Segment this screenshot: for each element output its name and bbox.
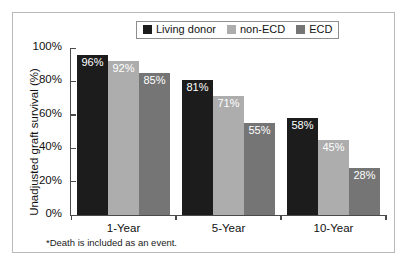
legend-item-ecd: ECD [296,24,332,35]
bar-group: 81%71%55%5-Year [176,48,281,215]
bar-value-label: 71% [213,98,244,109]
bar[interactable]: 55% [244,123,275,215]
legend-item-non-ecd: non-ECD [227,24,285,35]
legend-label-ecd: ECD [309,24,332,35]
legend-swatch-ecd [296,25,305,34]
y-axis-tick-label: 80% [39,73,62,85]
legend-swatch-living-donor [143,25,152,34]
y-axis-tick-label: 20% [39,174,62,186]
x-axis-label: 5-Year [176,222,281,234]
bar-value-label: 85% [139,75,170,86]
bar[interactable]: 85% [139,73,170,215]
plot-area: 0%20%40%60%80%100% 96%92%85%1-Year81%71%… [70,48,386,216]
legend-label-non-ecd: non-ECD [240,24,285,35]
chart-legend: Living donor non-ECD ECD [136,21,339,39]
bar[interactable]: 81% [182,80,213,215]
x-axis-tick-mark [385,215,386,220]
bar-groups: 96%92%85%1-Year81%71%55%5-Year58%45%28%1… [71,48,386,215]
y-axis-tick-label: 60% [39,107,62,119]
x-axis-tick-mark [281,215,282,220]
bar[interactable]: 28% [349,168,380,215]
bar-value-label: 58% [287,120,318,131]
legend-swatch-non-ecd [227,25,236,34]
chart-figure: Living donor non-ECD ECD Unadjusted graf… [12,12,395,253]
bar-value-label: 81% [182,82,213,93]
bar[interactable]: 71% [213,96,244,215]
bar-group: 96%92%85%1-Year [71,48,176,215]
bar-value-label: 92% [108,63,139,74]
y-axis-tick-label: 100% [33,40,62,52]
bar-value-label: 28% [349,170,380,181]
legend-item-living-donor: Living donor [143,24,216,35]
x-axis-tick-mark [176,215,177,220]
bar-value-label: 55% [244,125,275,136]
chart-footnote: *Death is included as an event. [46,237,177,248]
bar[interactable]: 96% [77,55,108,215]
x-axis-tick-mark [71,215,72,220]
x-axis-label: 1-Year [71,222,176,234]
legend-label-living-donor: Living donor [156,24,216,35]
bar[interactable]: 92% [108,61,139,215]
bar-value-label: 45% [318,142,349,153]
y-axis-tick-label: 40% [39,140,62,152]
bar-value-label: 96% [77,57,108,68]
bar[interactable]: 58% [287,118,318,215]
y-axis-tick-label: 0% [45,207,62,219]
x-axis-label: 10-Year [281,222,386,234]
bar[interactable]: 45% [318,140,349,215]
bar-group: 58%45%28%10-Year [281,48,386,215]
